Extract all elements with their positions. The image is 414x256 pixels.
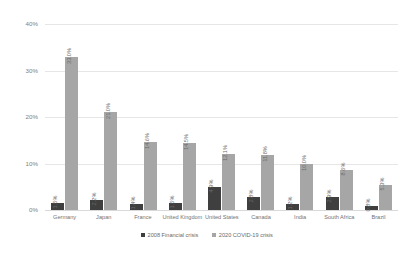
legend-item[interactable]: 2020 COVID-19 crisis xyxy=(212,232,273,238)
x-axis-category-label: United States xyxy=(202,212,241,226)
bar-group: 2.2%21.0% xyxy=(84,24,123,210)
bar-group: 2.9%8.6% xyxy=(320,24,359,210)
bar-group: 1.5%33.0% xyxy=(45,24,84,210)
bar-value-label: 11.8% xyxy=(262,146,268,161)
bar: 21.0% xyxy=(104,112,117,210)
bar: 1.5% xyxy=(51,203,64,210)
y-axis-tick-label: 30% xyxy=(6,67,38,75)
bar-value-label: 1.5% xyxy=(169,196,175,209)
bar-value-label: 12.1% xyxy=(222,145,228,161)
bar-groups: 1.5%33.0%2.2%21.0%1.4%14.6%1.5%14.5%4.9%… xyxy=(45,24,398,210)
x-axis-category-label: India xyxy=(281,212,320,226)
bar: 2.9% xyxy=(326,197,339,210)
bar-value-label: 1.2% xyxy=(287,197,293,210)
bar: 2.8% xyxy=(247,197,260,210)
bar-value-label: 2.8% xyxy=(248,190,254,203)
bar-value-label: 14.6% xyxy=(144,133,150,149)
bar: 2.2% xyxy=(90,200,103,210)
y-axis-tick-label: 0% xyxy=(6,206,38,214)
bar-value-label: 1.4% xyxy=(130,196,136,209)
bar-value-label: 0.8% xyxy=(365,199,371,212)
bar: 0.8% xyxy=(365,206,378,210)
bar-value-label: 4.9% xyxy=(208,180,214,193)
bar: 5.3% xyxy=(379,185,392,210)
legend-swatch-icon xyxy=(212,233,216,237)
legend-label: 2008 Financial crisis xyxy=(148,232,199,238)
bar-value-label: 8.6% xyxy=(340,163,346,176)
chart-legend: 2008 Financial crisis2020 COVID-19 crisi… xyxy=(0,232,414,238)
legend-item[interactable]: 2008 Financial crisis xyxy=(141,232,198,238)
x-axis-category-label: Germany xyxy=(45,212,84,226)
x-axis-category-label: France xyxy=(123,212,162,226)
x-axis-category-label: Canada xyxy=(241,212,280,226)
bar: 1.4% xyxy=(130,204,143,211)
bar-group: 0.8%5.3% xyxy=(359,24,398,210)
y-axis-tick-label: 10% xyxy=(6,160,38,168)
x-axis-category-label: United Kingdom xyxy=(162,212,202,226)
x-axis-category-label: South Africa xyxy=(320,212,359,226)
bar-group: 1.5%14.5% xyxy=(163,24,202,210)
bar-value-label: 1.5% xyxy=(52,196,58,209)
bar-group: 4.9%12.1% xyxy=(202,24,241,210)
legend-label: 2020 COVID-19 crisis xyxy=(219,232,273,238)
legend-swatch-icon xyxy=(141,233,145,237)
bar-value-label: 21.0% xyxy=(105,103,111,119)
bar: 1.5% xyxy=(169,203,182,210)
bar: 12.1% xyxy=(222,154,235,210)
x-axis-category-label: Brazil xyxy=(359,212,398,226)
bar: 33.0% xyxy=(65,57,78,210)
bar: 10.0% xyxy=(300,164,313,211)
bar-group: 1.2%10.0% xyxy=(280,24,319,210)
bar-group: 2.8%11.8% xyxy=(241,24,280,210)
bar-value-label: 10.0% xyxy=(301,155,307,171)
bar: 8.6% xyxy=(340,170,353,210)
bar: 4.9% xyxy=(208,187,221,210)
bar-chart: 0%10%20%30%40% 1.5%33.0%2.2%21.0%1.4%14.… xyxy=(0,0,414,256)
bar: 1.2% xyxy=(286,204,299,210)
bar: 11.8% xyxy=(261,155,274,210)
y-axis-tick-label: 20% xyxy=(6,113,38,121)
bar-value-label: 14.5% xyxy=(183,134,189,150)
x-axis-labels: GermanyJapanFranceUnited KingdomUnited S… xyxy=(45,212,398,226)
bar-value-label: 2.9% xyxy=(326,189,332,202)
bar-value-label: 2.2% xyxy=(91,192,97,205)
axis-baseline xyxy=(45,210,398,211)
bar-group: 1.4%14.6% xyxy=(123,24,162,210)
y-axis-tick-label: 40% xyxy=(6,20,38,28)
bar: 14.6% xyxy=(144,142,157,210)
bar-value-label: 33.0% xyxy=(66,48,72,64)
plot-area: 1.5%33.0%2.2%21.0%1.4%14.6%1.5%14.5%4.9%… xyxy=(45,24,398,210)
x-axis-category-label: Japan xyxy=(84,212,123,226)
bar: 14.5% xyxy=(183,143,196,210)
bar-value-label: 5.3% xyxy=(379,178,385,191)
